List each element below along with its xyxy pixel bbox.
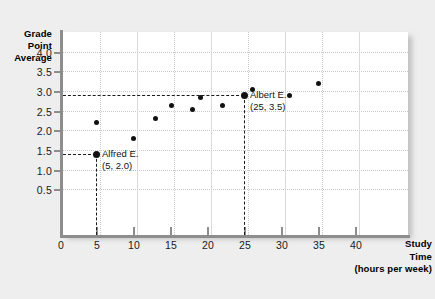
y-tick-label-3.5: 3.5 — [12, 66, 52, 78]
guide-line-horizontal-2.0 — [63, 154, 96, 155]
guide-line-horizontal-3.5 — [63, 95, 244, 96]
gridline-horizontal-3.0 — [63, 91, 408, 92]
annotation-alfred-coords: (5, 2.0) — [102, 160, 138, 172]
gridline-vertical-10 — [137, 32, 138, 235]
y-tick-0.5 — [54, 189, 62, 191]
x-tick-label-20: 20 — [193, 239, 223, 251]
y-axis-title-line-1: Grade — [0, 28, 52, 40]
scatter-chart-figure: 4.0 3.5 3.0 2.5 2.0 1.5 1.0 0.5 0 5 10 1… — [0, 0, 435, 299]
y-axis-title-line-3: Average — [0, 52, 52, 64]
data-point — [131, 136, 136, 141]
x-axis-title-line-2: Time — [300, 251, 432, 264]
guide-line-vertical-25 — [244, 95, 245, 235]
data-point — [94, 120, 99, 125]
data-point-albert — [241, 92, 248, 99]
gridline-vertical-5 — [100, 32, 101, 235]
gridline-vertical-40 — [359, 32, 360, 235]
y-tick-label-2.5: 2.5 — [12, 106, 52, 118]
y-tick-label-1.5: 1.5 — [12, 145, 52, 157]
y-tick-2.0 — [54, 130, 62, 132]
y-tick-4.0 — [54, 52, 62, 54]
annotation-albert-name: Albert E. — [250, 89, 286, 101]
y-tick-label-0.5: 0.5 — [12, 184, 52, 196]
gridline-vertical-30 — [285, 32, 286, 235]
x-tick-label-30: 30 — [267, 239, 297, 251]
gridline-vertical-35 — [322, 32, 323, 235]
x-axis-title-line-1: Study — [300, 238, 432, 251]
plot-area — [63, 32, 408, 235]
x-tick-40 — [355, 227, 357, 236]
y-tick-1.5 — [54, 150, 62, 152]
gridline-vertical-25 — [248, 32, 249, 235]
data-point — [287, 93, 292, 98]
x-tick-label-0: 0 — [46, 239, 76, 251]
x-axis-title-units: (hours per week) — [300, 263, 432, 276]
x-tick-label-10: 10 — [119, 239, 149, 251]
x-tick-label-15: 15 — [156, 239, 186, 251]
y-tick-3.0 — [54, 91, 62, 93]
data-point — [220, 103, 225, 108]
data-point — [316, 81, 321, 86]
gridline-horizontal-2.0 — [63, 130, 408, 131]
x-tick-35 — [318, 227, 320, 236]
annotation-alfred: Alfred E. (5, 2.0) — [102, 148, 138, 171]
annotation-albert-coords: (25, 3.5) — [250, 101, 286, 113]
guide-line-vertical-5 — [96, 154, 97, 235]
data-point — [190, 107, 195, 112]
gridline-horizontal-2.5 — [63, 111, 408, 112]
gridline-vertical-15 — [174, 32, 175, 235]
y-axis-title: Grade Point Average — [0, 28, 52, 65]
y-tick-label-2.0: 2.0 — [12, 125, 52, 137]
y-tick-label-1.0: 1.0 — [12, 165, 52, 177]
x-tick-label-25: 25 — [230, 239, 260, 251]
gridline-vertical-20 — [211, 32, 212, 235]
x-tick-label-5: 5 — [82, 239, 112, 251]
data-point — [198, 95, 203, 100]
y-tick-2.5 — [54, 111, 62, 113]
data-point — [169, 103, 174, 108]
annotation-albert: Albert E. (25, 3.5) — [250, 89, 286, 112]
x-axis-title: Study Time (hours per week) — [300, 238, 432, 276]
y-axis-line — [60, 30, 63, 237]
x-tick-15 — [170, 227, 172, 236]
y-tick-1.0 — [54, 170, 62, 172]
x-tick-10 — [133, 227, 135, 236]
y-tick-3.5 — [54, 71, 62, 73]
y-tick-label-3.0: 3.0 — [12, 86, 52, 98]
x-tick-20 — [207, 227, 209, 236]
x-tick-30 — [281, 227, 283, 236]
annotation-alfred-name: Alfred E. — [102, 148, 138, 160]
data-point — [153, 116, 158, 121]
gridline-horizontal-3.5 — [63, 71, 408, 72]
gridline-horizontal-4.0 — [63, 52, 408, 53]
data-point-alfred — [93, 151, 100, 158]
gridline-horizontal-0.5 — [63, 189, 408, 190]
y-axis-title-line-2: Point — [0, 40, 52, 52]
